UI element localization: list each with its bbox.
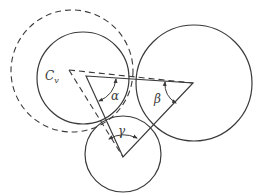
alpha-label: α xyxy=(111,89,119,103)
dashed-circle xyxy=(11,10,133,132)
cv-label: Cv xyxy=(45,69,59,85)
right-circle xyxy=(136,25,252,141)
center-triangle xyxy=(86,76,193,157)
gamma-label: γ xyxy=(118,124,126,138)
beta-arc xyxy=(165,82,176,103)
geometry-diagram: Cv α β γ xyxy=(0,0,259,196)
beta-label: β xyxy=(153,92,161,106)
